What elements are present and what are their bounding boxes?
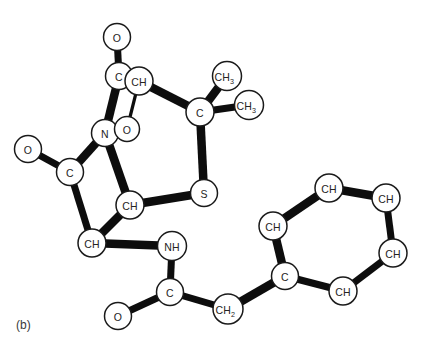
atom-node-pch5: CH: [329, 277, 357, 305]
atom-label-o1: O: [113, 32, 121, 44]
atom-label-pch1: CH: [265, 221, 281, 233]
atom-node-ch2b: CH2: [213, 294, 243, 324]
atom-node-ch2a: CH: [116, 191, 144, 219]
molecule-diagram: OCCHNOOCCHCHNHCOCH2SCCH3CH3CCHCHCHCHCH: [0, 0, 421, 344]
atom-label-ch1: CH: [131, 76, 147, 88]
atom-label-pch5: CH: [335, 286, 351, 298]
atom-node-ch3c: CH3: [235, 91, 264, 120]
atom-node-s1: S: [191, 180, 218, 207]
chemical-structure-figure: OCCHNOOCCHCHNHCOCH2SCCH3CH3CCHCHCHCHCH (…: [0, 0, 421, 344]
atom-node-pc: C: [272, 263, 299, 290]
atom-node-ch1: CH: [125, 67, 153, 95]
atom-node-nh1: NH: [158, 232, 187, 261]
atom-label-ch2a: CH: [122, 200, 138, 212]
atom-node-pch2: CH: [315, 174, 343, 202]
atom-node-c4: C: [186, 98, 214, 126]
atom-node-o3: O: [15, 136, 42, 163]
atom-label-o3: O: [24, 144, 32, 156]
atom-label-o2: O: [123, 124, 131, 136]
atom-node-o4: O: [105, 303, 132, 330]
atom-label-c2: C: [66, 167, 74, 179]
atom-label-subscript-ch3b: 3: [230, 77, 234, 86]
atom-label-nh1: NH: [164, 241, 180, 253]
atom-label-subscript-ch3c: 3: [252, 106, 256, 115]
atom-label-c1: C: [115, 71, 123, 83]
atoms-layer: OCCHNOOCCHCHNHCOCH2SCCH3CH3CCHCHCHCHCH: [15, 24, 408, 330]
atom-node-o1: O: [104, 24, 131, 51]
atom-node-c3: C: [157, 279, 184, 306]
atom-node-ch3b: CH3: [213, 62, 242, 91]
atom-node-o2: O: [115, 117, 140, 142]
atom-label-pch3: CH: [378, 193, 394, 205]
atom-label-pc: C: [281, 271, 289, 283]
atom-label-c3: C: [166, 287, 174, 299]
atom-label-pch2: CH: [321, 183, 337, 195]
atom-label-pch4: CH: [385, 248, 401, 260]
atom-label-s1: S: [200, 188, 207, 200]
atom-node-pch3: CH: [372, 184, 400, 212]
atom-node-pch4: CH: [379, 239, 407, 267]
atom-label-c4: C: [196, 107, 204, 119]
atom-label-o4: O: [114, 311, 122, 323]
atom-node-pch1: CH: [259, 212, 287, 240]
panel-label: (b): [16, 318, 31, 332]
atom-label-n1: N: [101, 128, 109, 140]
atom-label-ch3a: CH: [84, 238, 100, 250]
atom-node-ch3a: CH: [78, 229, 106, 257]
atom-node-c2: C: [57, 159, 84, 186]
atom-label-subscript-ch2b: 2: [231, 310, 235, 319]
